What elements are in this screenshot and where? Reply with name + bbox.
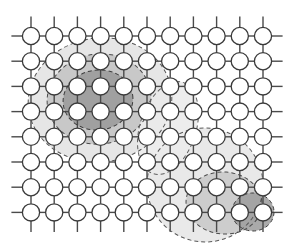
lattice-node: [185, 128, 202, 145]
lattice-node: [162, 153, 179, 170]
lattice-node: [185, 103, 202, 120]
lattice-node: [22, 103, 39, 120]
lattice-node: [208, 153, 225, 170]
lattice-node: [185, 53, 202, 70]
lattice-node: [115, 153, 132, 170]
lattice-node: [162, 27, 179, 44]
lattice-node: [185, 204, 202, 221]
lattice-node: [115, 27, 132, 44]
lattice-node: [254, 27, 271, 44]
lattice-node: [138, 78, 155, 95]
lattice-node: [208, 103, 225, 120]
lattice-node: [46, 78, 63, 95]
lattice-node: [92, 53, 109, 70]
lattice-node: [46, 128, 63, 145]
lattice-node: [92, 27, 109, 44]
lattice-node: [231, 153, 248, 170]
lattice-node: [208, 128, 225, 145]
lattice-node: [69, 179, 86, 196]
lattice-node: [22, 78, 39, 95]
lattice-node: [254, 78, 271, 95]
lattice-node: [208, 53, 225, 70]
lattice-node: [115, 103, 132, 120]
lattice-node: [162, 128, 179, 145]
lattice-node: [208, 179, 225, 196]
lattice-node: [231, 27, 248, 44]
lattice-node: [162, 204, 179, 221]
lattice-figure: [0, 0, 285, 248]
lattice-node: [231, 128, 248, 145]
lattice-node: [46, 27, 63, 44]
lattice-node: [115, 204, 132, 221]
lattice-node: [69, 53, 86, 70]
lattice-node: [185, 179, 202, 196]
lattice-node: [92, 179, 109, 196]
lattice-node: [46, 204, 63, 221]
lattice-node: [231, 204, 248, 221]
lattice-node: [22, 153, 39, 170]
lattice-node: [69, 153, 86, 170]
lattice-node: [22, 53, 39, 70]
lattice-node: [69, 78, 86, 95]
lattice-node: [208, 27, 225, 44]
lattice-node: [185, 78, 202, 95]
lattice-node: [69, 103, 86, 120]
lattice-node: [185, 27, 202, 44]
lattice-node: [138, 153, 155, 170]
lattice-node: [115, 78, 132, 95]
lattice-node: [231, 78, 248, 95]
lattice-node: [92, 103, 109, 120]
lattice-node: [22, 204, 39, 221]
lattice-node: [46, 153, 63, 170]
lattice-canvas: [0, 0, 285, 248]
lattice-node: [162, 103, 179, 120]
lattice-node: [185, 153, 202, 170]
lattice-node: [69, 128, 86, 145]
lattice-node: [115, 128, 132, 145]
lattice-node: [92, 128, 109, 145]
lattice-node: [22, 179, 39, 196]
lattice-node: [231, 53, 248, 70]
lattice-node: [138, 179, 155, 196]
lattice-node: [254, 103, 271, 120]
lattice-node: [46, 179, 63, 196]
lattice-node: [254, 204, 271, 221]
lattice-node: [138, 204, 155, 221]
lattice-node: [22, 128, 39, 145]
lattice-node: [254, 153, 271, 170]
lattice-node: [231, 179, 248, 196]
lattice-node: [138, 27, 155, 44]
lattice-node: [162, 53, 179, 70]
lattice-node: [92, 153, 109, 170]
lattice-node: [138, 128, 155, 145]
lattice-node: [254, 179, 271, 196]
lattice-node: [162, 179, 179, 196]
lattice-node: [69, 27, 86, 44]
lattice-node: [115, 179, 132, 196]
lattice-node: [138, 103, 155, 120]
lattice-node: [208, 204, 225, 221]
lattice-node: [254, 128, 271, 145]
lattice-node: [138, 53, 155, 70]
lattice-node: [46, 53, 63, 70]
lattice-node: [69, 204, 86, 221]
lattice-node: [162, 78, 179, 95]
lattice-node: [22, 27, 39, 44]
lattice-node: [92, 204, 109, 221]
lattice-node: [115, 53, 132, 70]
lattice-node: [231, 103, 248, 120]
lattice-node: [254, 53, 271, 70]
lattice-node: [92, 78, 109, 95]
lattice-node: [46, 103, 63, 120]
lattice-node: [208, 78, 225, 95]
